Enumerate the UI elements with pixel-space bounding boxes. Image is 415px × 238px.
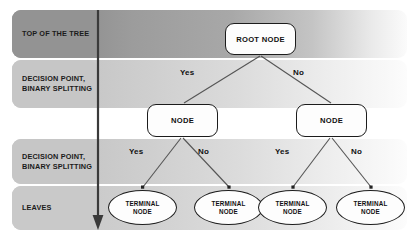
decision-tree-diagram: TOP OF THE TREE DECISION POINT, BINARY S…: [0, 0, 415, 238]
node-right[interactable]: NODE: [296, 104, 367, 137]
branch-label-root-yes: Yes: [180, 68, 194, 77]
node-right-label: NODE: [320, 116, 343, 125]
branch-label-right-no: No: [351, 147, 362, 156]
depth-direction-arrow: [90, 8, 106, 232]
branch-label-root-no: No: [293, 68, 304, 77]
terminal-node[interactable]: TERMINAL NODE: [336, 190, 405, 225]
terminal-node-label: TERMINAL NODE: [125, 200, 159, 216]
root-node-label: ROOT NODE: [236, 35, 285, 44]
branch-label-left-yes: Yes: [129, 147, 143, 156]
branch-label-left-no: No: [198, 147, 209, 156]
terminal-node[interactable]: TERMINAL NODE: [108, 190, 177, 225]
node-left[interactable]: NODE: [147, 104, 218, 137]
terminal-node-label: TERMINAL NODE: [275, 200, 309, 216]
branch-label-right-yes: Yes: [275, 147, 289, 156]
terminal-node[interactable]: TERMINAL NODE: [194, 190, 263, 225]
terminal-node-label: TERMINAL NODE: [353, 200, 387, 216]
terminal-node[interactable]: TERMINAL NODE: [258, 190, 327, 225]
node-left-label: NODE: [171, 116, 194, 125]
terminal-node-label: TERMINAL NODE: [211, 200, 245, 216]
root-node[interactable]: ROOT NODE: [225, 23, 296, 55]
